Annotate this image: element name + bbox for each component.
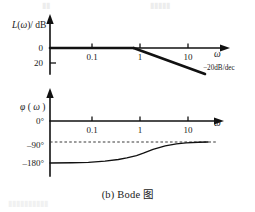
magnitude-xtick-label-1: 1 — [138, 52, 143, 62]
bode-plot-svg: L(ω)/ dB 0 20 0.1 1 10 ω −20dB/dec — [0, 0, 255, 212]
phase-ytick-label-minus180: –180° — [21, 158, 44, 168]
phase-x-axis-label: ω — [214, 118, 221, 128]
phase-y-axis-label: φ ( ω ) — [20, 102, 45, 113]
magnitude-ytick-label-20: 20 — [34, 58, 44, 68]
magnitude-ytick-label-0: 0 — [39, 43, 44, 53]
slope-annotation-label: −20dB/dec — [203, 64, 235, 72]
figure-caption: (b) Bode 图 — [0, 186, 255, 201]
phase-ytick-label-minus90: –90° — [26, 140, 45, 150]
magnitude-xtick-label-0.1: 0.1 — [86, 52, 97, 62]
phase-xtick-label-1: 1 — [138, 125, 143, 135]
magnitude-slope-asymptote — [134, 48, 205, 74]
magnitude-y-axis-arrow-icon — [46, 14, 53, 24]
phase-ytick-label-0: 0° — [36, 116, 45, 126]
phase-y-axis-arrow-icon — [46, 88, 53, 98]
magnitude-xtick-label-10: 10 — [184, 52, 194, 62]
phase-xtick-label-10: 10 — [184, 125, 194, 135]
phase-xtick-label-0.1: 0.1 — [86, 125, 97, 135]
magnitude-x-axis-arrow-icon — [220, 44, 230, 51]
phase-plot: φ ( ω ) 0° –90° –180° 0.1 1 10 ω — [20, 88, 224, 176]
magnitude-y-axis-label: L(ω)/ dB — [11, 20, 46, 31]
magnitude-plot: L(ω)/ dB 0 20 0.1 1 10 ω −20dB/dec — [11, 14, 235, 74]
magnitude-x-axis-label: ω — [214, 49, 221, 59]
bode-figure: ▮▮ ▮▮▮▮▮ ▮▮▮▮▮▮▮▮▮▮ L(ω)/ dB 0 20 — [0, 0, 255, 212]
phase-response-curve — [50, 142, 208, 163]
